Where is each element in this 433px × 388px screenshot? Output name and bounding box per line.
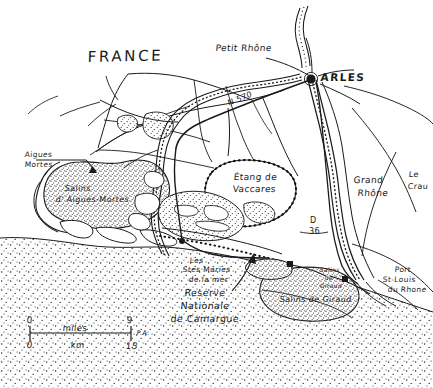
sea-stipple-area	[0, 238, 433, 388]
le-crau-plain	[344, 86, 433, 310]
map-container: FRANCE Petit Rhône ARLES N 570 Aigues Mo…	[0, 0, 433, 388]
map-drawing	[0, 0, 433, 388]
